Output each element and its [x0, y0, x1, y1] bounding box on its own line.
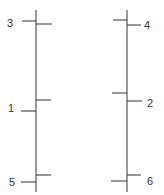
label-4: 4: [144, 19, 150, 31]
label-1: 1: [8, 102, 14, 114]
label-5: 5: [9, 176, 15, 188]
left-line-group: 3 1 5: [7, 10, 52, 192]
diagram-canvas: 3 1 5 4 2 6: [0, 0, 164, 195]
label-3: 3: [7, 17, 13, 29]
label-2: 2: [147, 97, 153, 109]
label-6: 6: [147, 175, 153, 187]
right-line-group: 4 2 6: [111, 10, 153, 192]
